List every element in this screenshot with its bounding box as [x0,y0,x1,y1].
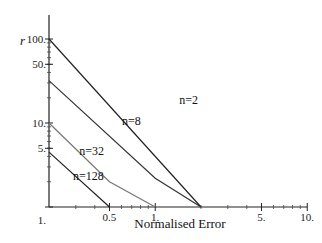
series-label-n-8: n=8 [122,114,141,128]
series-label-n-2: n=2 [179,93,198,107]
series-label-n-32: n=32 [79,144,104,158]
series-line-n-8 [49,81,201,207]
y-tick-label: 5. [38,142,47,154]
x-axis-title: Normalised Error [134,216,226,231]
y-axis-title: r [20,33,26,48]
x-tick-label: 10. [300,211,314,223]
y-tick-label: 1. [38,214,47,226]
y-tick-label: 10. [32,117,46,129]
chart: 1.5.10.50.100.0.51.5.10.n=2n=8n=32n=128 … [0,0,322,243]
y-tick-label: 100. [27,33,47,45]
series-line-n-32 [49,123,155,207]
x-tick-label: 0.5 [103,211,117,223]
y-tick-label: 50. [32,58,46,70]
series-label-n-128: n=128 [73,169,104,183]
x-tick-label: 5. [257,211,266,223]
